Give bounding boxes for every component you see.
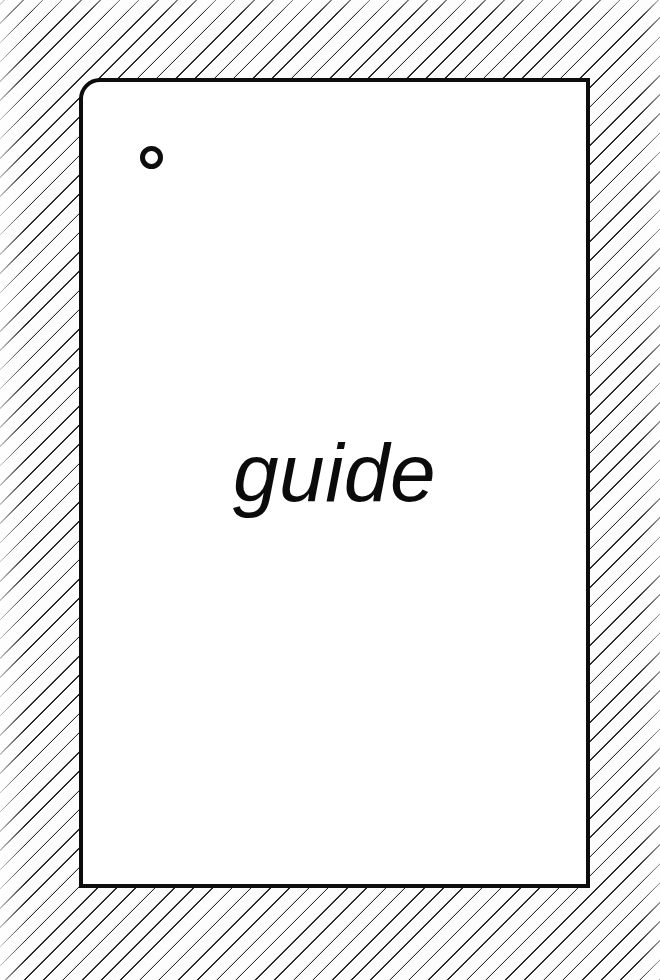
guide-card[interactable]: guide: [79, 78, 590, 888]
screenshot-canvas: guide: [0, 0, 660, 980]
circle-outline-icon: [140, 146, 163, 169]
card-caption: guide: [83, 432, 586, 514]
